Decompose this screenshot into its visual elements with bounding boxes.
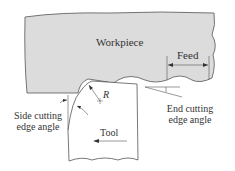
workpiece-label: Workpiece [96,37,143,48]
end-cutting-line2: edge angle [160,114,220,125]
end-cutting-line1: End cutting [160,103,220,114]
radius-label: R [103,89,109,100]
side-cutting-edge-angle-label: Side cutting edge angle [8,110,68,132]
tool-geometry-diagram [0,0,235,171]
side-cutting-line1: Side cutting [8,110,68,121]
end-angle-edge-line [145,87,182,97]
side-angle-pointer-arrow-icon [63,99,67,102]
side-cutting-line2: edge angle [8,121,68,132]
tool-label: Tool [100,127,118,138]
feed-label: Feed [177,50,198,61]
end-cutting-edge-angle-label: End cutting edge angle [160,103,220,125]
